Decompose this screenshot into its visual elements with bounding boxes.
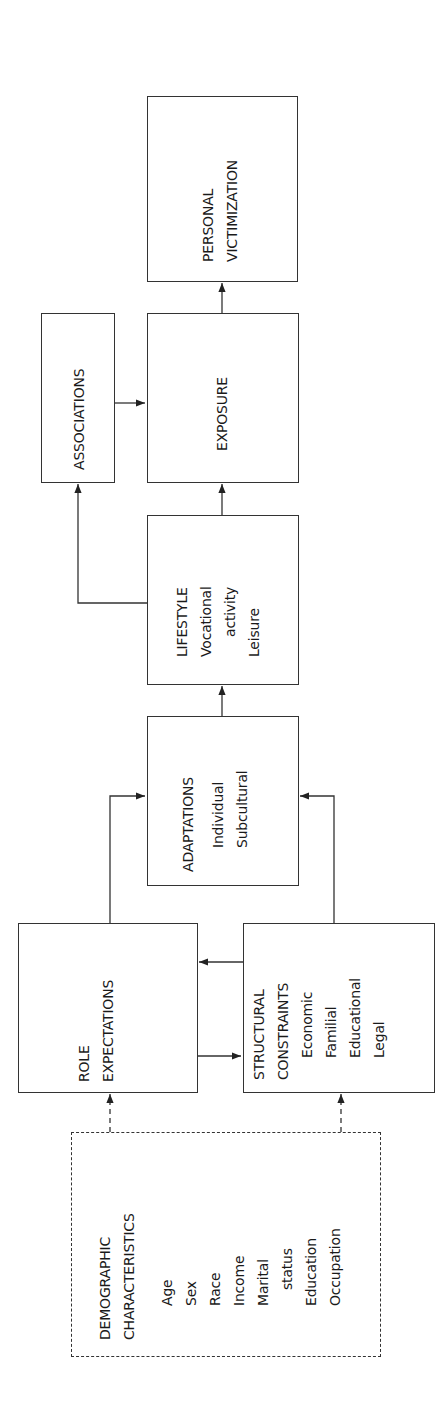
lifestyle-item-activity: activity xyxy=(218,586,242,657)
arrow-lifestyle-to-associations xyxy=(78,484,147,603)
demographic-text-group: DEMOGRAPHIC CHARACTERISTICS Age Sex Race… xyxy=(93,1213,347,1340)
demographic-item-occupation: Occupation xyxy=(323,1213,347,1340)
exposure-title: EXPOSURE xyxy=(210,377,234,451)
structural-item-economic: Economic xyxy=(295,978,319,1080)
role-title-line-1: ROLE xyxy=(72,980,96,1082)
structural-title-line-2: CONSTRAINTS xyxy=(271,978,295,1080)
lifestyle-text-group: LIFESTYLE Vocational activity Leisure xyxy=(170,586,266,657)
structural-item-familial: Familial xyxy=(319,978,343,1080)
lifestyle-title: LIFESTYLE xyxy=(170,586,194,657)
associations-title: ASSOCIATIONS xyxy=(67,369,91,470)
demographic-item-status: status xyxy=(275,1213,299,1340)
victimization-title-line-1: PERSONAL xyxy=(196,160,220,262)
demographic-title-line-1: DEMOGRAPHIC xyxy=(93,1213,117,1340)
demographic-item-marital: Marital xyxy=(251,1213,275,1340)
lifestyle-item-leisure: Leisure xyxy=(242,586,266,657)
structural-constraints-text-group: STRUCTURAL CONSTRAINTS Economic Familial… xyxy=(247,978,391,1080)
demographic-title-line-2: CHARACTERISTICS xyxy=(117,1213,141,1340)
demographic-item-income: Income xyxy=(227,1213,251,1340)
structural-item-legal: Legal xyxy=(367,978,391,1080)
arrow-role-to-adaptations xyxy=(110,796,145,923)
personal-victimization-text-group: PERSONAL VICTIMIZATION xyxy=(196,160,244,262)
victimization-title-line-2: VICTIMIZATION xyxy=(220,160,244,262)
adaptations-item-subcultural: Subcultural xyxy=(230,771,254,873)
structural-title-line-1: STRUCTURAL xyxy=(247,978,271,1080)
adaptations-item-individual: Individual xyxy=(206,771,230,873)
arrow-structural-to-adaptations xyxy=(300,796,334,923)
role-title-line-2: EXPECTATIONS xyxy=(96,980,120,1082)
demographic-item-education: Education xyxy=(299,1213,323,1340)
associations-text-group: ASSOCIATIONS xyxy=(67,369,91,470)
adaptations-text-group: ADAPTATIONS Individual Subcultural xyxy=(176,771,254,873)
demographic-item-age: Age xyxy=(155,1213,179,1340)
exposure-text-group: EXPOSURE xyxy=(210,377,234,451)
role-expectations-text-group: ROLE EXPECTATIONS xyxy=(72,980,120,1082)
lifestyle-item-vocational: Vocational xyxy=(194,586,218,657)
structural-item-educational: Educational xyxy=(343,978,367,1080)
demographic-item-sex: Sex xyxy=(179,1213,203,1340)
adaptations-title: ADAPTATIONS xyxy=(176,771,200,873)
lifestyle-exposure-diagram: DEMOGRAPHIC CHARACTERISTICS Age Sex Race… xyxy=(0,0,442,1407)
demographic-item-race: Race xyxy=(203,1213,227,1340)
